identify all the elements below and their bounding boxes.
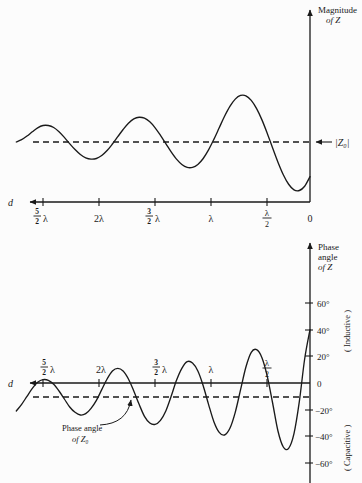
phase-tick-label-5-2-lambda: λ (50, 364, 55, 375)
phase-axis-title-line3: of Z (318, 262, 333, 272)
ytick-label-20: 20° (317, 352, 330, 362)
phase-z0-label-line1: Phase angle (62, 423, 103, 433)
tick-label-5-2-num: 5 (35, 207, 39, 216)
phase-axis-title-line1: Phase (318, 242, 339, 252)
phase-tick-label-3-2-lambda: λ (162, 364, 167, 375)
ytick-label-60: 60° (317, 299, 330, 309)
phase-z0-label-line2: of Z₀ (72, 434, 88, 444)
phase-tick-label-5-2-den: 2 (42, 368, 46, 377)
ytick-label-40: 40° (317, 326, 330, 336)
phase-tick-label-3-2-den: 2 (154, 368, 158, 377)
z0-label: |Z₀| (335, 137, 350, 148)
ytick-label-minus-60: −60° (315, 459, 333, 469)
tick-label-3-2-lambda: λ (155, 213, 160, 224)
inductive-label: ( Inductive ) (342, 310, 352, 352)
phase-tick-label-lambda: λ (209, 364, 214, 375)
ytick-label-minus-40: −40° (315, 432, 333, 442)
tick-label-5-2-lambda: λ (43, 213, 48, 224)
tick-label-3-2-den: 2 (147, 217, 151, 226)
phase-tick-label-2-lambda: 2λ (96, 364, 106, 375)
tick-label-zero: 0 (308, 213, 313, 224)
tick-label-2-lambda: 2λ (94, 213, 104, 224)
ytick-label-minus-20: −20° (315, 406, 333, 416)
tick-label-lambda-2-den: 2 (265, 220, 269, 229)
phase-tick-label-3-2-num: 3 (154, 358, 158, 367)
magnitude-axis-title-line2: of Z (326, 15, 341, 25)
tick-label-5-2-den: 2 (35, 217, 39, 226)
impedance-figure: Magnitude of Z |Z₀| d 5 2 λ 2λ 3 2 (0, 0, 362, 483)
phase-tick-label-5-2-num: 5 (42, 358, 46, 367)
tick-label-lambda: λ (209, 213, 214, 224)
tick-label-3-2-num: 3 (147, 207, 151, 216)
ytick-label-0: 0 (317, 379, 322, 389)
capacitive-label: ( Capacitive ) (342, 425, 352, 471)
phase-axis-title-line2: angle (318, 252, 338, 262)
phase-tick-label-lambda-2-num: λ (265, 358, 270, 368)
tick-label-lambda-2-num: λ (265, 208, 270, 218)
magnitude-axis-title-line1: Magnitude (318, 5, 357, 15)
